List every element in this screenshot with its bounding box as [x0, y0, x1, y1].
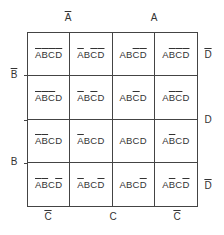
- variable-c: C: [133, 92, 140, 103]
- right-label-not-d-top: D: [202, 50, 214, 60]
- variable-c: C: [175, 179, 182, 190]
- variable-c: C: [175, 135, 182, 146]
- variable-d: D: [55, 135, 62, 146]
- minterm-cell: ABCD: [28, 163, 70, 206]
- variable-c: C: [90, 135, 97, 146]
- right-label-not-d-bottom: D: [202, 181, 214, 191]
- minterm-cell: ABCD: [28, 76, 70, 119]
- right-label-d: D: [202, 115, 214, 125]
- variable-d: D: [140, 179, 147, 190]
- bottom-label-c: C: [107, 212, 119, 222]
- bottom-label-not-c-left: C: [42, 212, 54, 222]
- variable-c: C: [48, 179, 55, 190]
- bottom-label-not-c-right: C: [171, 212, 183, 222]
- variable-c: C: [133, 49, 140, 60]
- variable-d: D: [182, 135, 189, 146]
- variable-c: C: [133, 135, 140, 146]
- variable-c: C: [90, 49, 97, 60]
- minterm-cell: ABCD: [113, 76, 155, 119]
- left-label-b: B: [8, 157, 20, 167]
- variable-d: D: [55, 92, 62, 103]
- variable-d: D: [140, 92, 147, 103]
- variable-d: D: [140, 135, 147, 146]
- variable-c: C: [133, 179, 140, 190]
- minterm-cell: ABCD: [155, 163, 197, 206]
- variable-c: C: [175, 49, 182, 60]
- variable-d: D: [182, 179, 189, 190]
- variable-c: C: [90, 179, 97, 190]
- variable-c: C: [48, 49, 55, 60]
- variable-d: D: [55, 49, 62, 60]
- minterm-cell: ABCD: [155, 120, 197, 163]
- variable-c: C: [48, 135, 55, 146]
- minterm-cell: ABCD: [155, 33, 197, 76]
- left-label-not-b: B: [8, 70, 20, 80]
- minterm-cell: ABCD: [70, 163, 112, 206]
- variable-d: D: [97, 179, 104, 190]
- top-label-not-a: A: [62, 13, 74, 23]
- minterm-cell: ABCD: [155, 76, 197, 119]
- variable-d: D: [97, 49, 104, 60]
- karnaugh-grid: ABCDABCDABCDABCDABCDABCDABCDABCDABCDABCD…: [27, 32, 198, 207]
- variable-c: C: [175, 92, 182, 103]
- minterm-cell: ABCD: [113, 163, 155, 206]
- variable-d: D: [55, 179, 62, 190]
- variable-d: D: [182, 92, 189, 103]
- minterm-cell: ABCD: [70, 76, 112, 119]
- variable-d: D: [97, 135, 104, 146]
- variable-c: C: [48, 92, 55, 103]
- variable-d: D: [140, 49, 147, 60]
- variable-d: D: [182, 49, 189, 60]
- minterm-cell: ABCD: [70, 33, 112, 76]
- minterm-cell: ABCD: [28, 33, 70, 76]
- minterm-cell: ABCD: [70, 120, 112, 163]
- minterm-cell: ABCD: [28, 120, 70, 163]
- minterm-cell: ABCD: [113, 120, 155, 163]
- top-label-a: A: [148, 13, 160, 23]
- variable-c: C: [90, 92, 97, 103]
- variable-d: D: [97, 92, 104, 103]
- minterm-cell: ABCD: [113, 33, 155, 76]
